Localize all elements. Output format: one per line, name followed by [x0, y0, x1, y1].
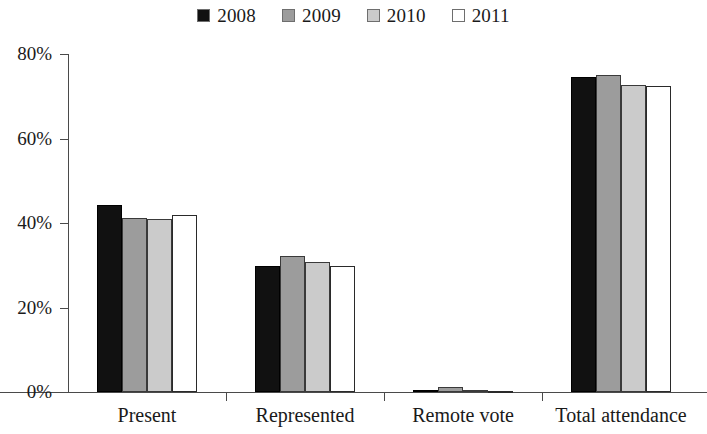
- y-axis-tick: [60, 223, 68, 224]
- y-axis-line: [68, 54, 69, 393]
- bar-represented-2009: [280, 256, 305, 392]
- y-axis-tick-label: 20%: [0, 298, 52, 317]
- x-axis-tick: [384, 392, 385, 401]
- x-axis-category-label: Present: [68, 404, 226, 426]
- bar-present-2011: [172, 215, 197, 392]
- bar-represented-2011: [330, 266, 355, 392]
- legend-swatch-2008: [197, 9, 210, 22]
- x-axis-category-label: Total attendance: [542, 404, 700, 426]
- legend-swatch-2011: [452, 9, 465, 22]
- bar-remote-vote-2009: [438, 387, 463, 392]
- bar-represented-2008: [255, 266, 280, 392]
- bar-total-attendance-2008: [571, 77, 596, 392]
- bar-remote-vote-2008: [413, 390, 438, 392]
- legend-label-2008: 2008: [217, 6, 256, 25]
- y-axis-tick: [60, 139, 68, 140]
- bar-chart: 2008200920102011 0%20%40%60%80% PresentR…: [0, 0, 707, 434]
- y-axis-tick: [60, 308, 68, 309]
- legend-label-2011: 2011: [472, 6, 510, 25]
- legend-entry-2009[interactable]: 2009: [282, 6, 341, 25]
- legend-entry-2008[interactable]: 2008: [197, 6, 256, 25]
- y-axis-tick: [60, 392, 68, 393]
- y-axis-tick: [60, 54, 68, 55]
- y-axis-tick-label: 60%: [0, 129, 52, 148]
- x-axis-tick: [542, 392, 543, 401]
- legend-swatch-2010: [367, 9, 380, 22]
- legend-swatch-2009: [282, 9, 295, 22]
- legend-label-2009: 2009: [302, 6, 341, 25]
- bar-remote-vote-2010: [463, 390, 488, 392]
- bar-present-2009: [122, 218, 147, 392]
- y-axis-tick-label: 80%: [0, 44, 52, 63]
- bar-total-attendance-2009: [596, 75, 621, 392]
- legend-entry-2010[interactable]: 2010: [367, 6, 426, 25]
- chart-legend: 2008200920102011: [0, 2, 707, 28]
- bar-total-attendance-2011: [646, 86, 671, 392]
- bar-total-attendance-2010: [621, 85, 646, 392]
- legend-label-2010: 2010: [387, 6, 426, 25]
- x-axis-tick: [226, 392, 227, 401]
- bar-present-2008: [97, 205, 122, 392]
- bar-present-2010: [147, 219, 172, 392]
- x-axis-category-label: Remote vote: [384, 404, 542, 426]
- x-axis-category-label: Represented: [226, 404, 384, 426]
- legend-entry-2011[interactable]: 2011: [452, 6, 510, 25]
- y-axis-tick-label: 0%: [0, 382, 52, 401]
- y-axis-tick-label: 40%: [0, 213, 52, 232]
- bar-remote-vote-2011: [488, 391, 513, 393]
- x-axis-line: [0, 392, 707, 393]
- bar-represented-2010: [305, 262, 330, 392]
